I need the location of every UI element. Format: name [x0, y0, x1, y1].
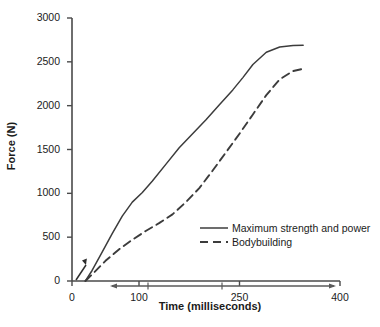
force-time-chart: Force (N) Time (milliseconds) 0500100015… [0, 0, 380, 327]
y-tick-label: 500 [20, 230, 60, 242]
y-tick-label: 2500 [20, 55, 60, 67]
y-tick-label: 1500 [20, 143, 60, 155]
x-tick-label: 250 [220, 291, 260, 303]
time-range-double-arrow [110, 283, 336, 290]
y-tick-label: 2000 [20, 99, 60, 111]
series-line-bodybuilding [85, 69, 303, 281]
y-tick-label: 1000 [20, 186, 60, 198]
x-tick-label: 100 [119, 291, 159, 303]
y-tick-label: 0 [20, 274, 60, 286]
legend-label-maximum-strength-and-power: Maximum strength and power [232, 222, 370, 234]
y-axis-title: Force (N) [5, 111, 17, 181]
legend-label-bodybuilding: Bodybuilding [232, 236, 292, 248]
y-tick-label: 3000 [20, 11, 60, 23]
legend-line-samples [200, 228, 228, 242]
origin-pointer-arrow [76, 257, 89, 280]
x-tick-label: 400 [320, 291, 360, 303]
x-tick-label: 0 [52, 291, 92, 303]
